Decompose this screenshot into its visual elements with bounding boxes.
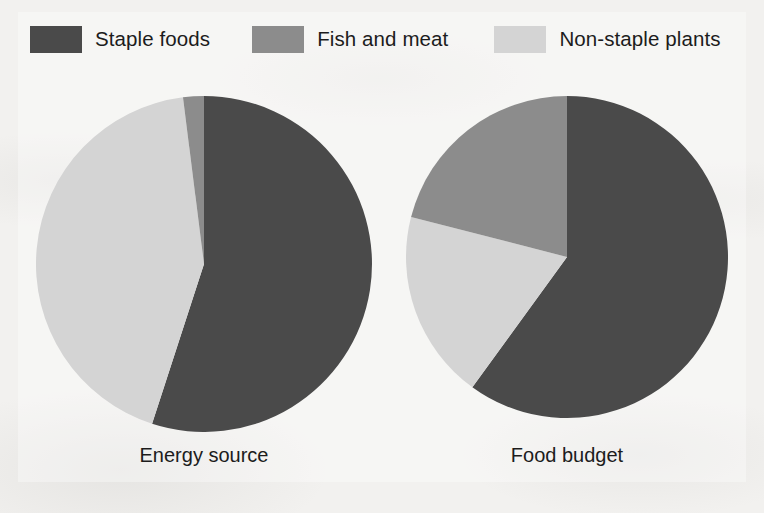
chart-legend: Staple foods Fish and meat Non-staple pl… <box>18 18 746 60</box>
legend-label-staple-foods: Staple foods <box>95 27 210 51</box>
legend-label-non-staple-plants: Non-staple plants <box>559 27 720 51</box>
legend-item-fish-and-meat: Fish and meat <box>252 26 448 53</box>
legend-swatch-non-staple-plants <box>494 26 546 53</box>
pie-svg-energy-source <box>36 96 372 432</box>
legend-item-staple-foods: Staple foods <box>30 26 210 53</box>
legend-swatch-staple-foods <box>30 26 82 53</box>
pie-chart-energy-source: Energy source <box>36 96 372 432</box>
legend-label-fish-and-meat: Fish and meat <box>317 27 448 51</box>
pie-caption-food-budget: Food budget <box>406 444 728 467</box>
pie-chart-food-budget: Food budget <box>406 96 728 418</box>
legend-swatch-fish-and-meat <box>252 26 304 53</box>
pie-caption-energy-source: Energy source <box>36 444 372 467</box>
pie-svg-food-budget <box>406 96 728 418</box>
legend-item-non-staple-plants: Non-staple plants <box>494 26 720 53</box>
pie-chart-figure: Staple foods Fish and meat Non-staple pl… <box>0 0 764 513</box>
